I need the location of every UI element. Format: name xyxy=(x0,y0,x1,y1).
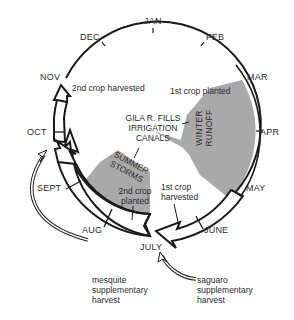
second-crop-harvested-label: 2nd crop harvested xyxy=(72,83,145,93)
saguaro-line-3: harvest xyxy=(197,295,253,305)
month-label-oct: OCT xyxy=(27,127,47,137)
first-harvested-line-2: harvested xyxy=(161,192,198,202)
center-label-line-1: GILA R. FILLS xyxy=(118,113,188,123)
mesquite-harvest-label: mesquite supplementary harvest xyxy=(92,275,148,305)
saguaro-harvest-label: saguaro supplementary harvest xyxy=(197,275,253,305)
mesquite-line-3: harvest xyxy=(92,295,148,305)
month-label-mar: MAR xyxy=(247,72,268,82)
month-label-july: JULY xyxy=(140,242,162,252)
month-label-june: JUNE xyxy=(204,225,228,235)
second-planted-line-1: 2nd crop xyxy=(114,186,156,196)
second-planted-line-2: planted xyxy=(114,196,156,206)
center-label-line-3: CANALS xyxy=(118,133,188,143)
saguaro-line-2: supplementary xyxy=(197,285,253,295)
month-label-nov: NOV xyxy=(40,72,60,82)
month-label-jan: JAN xyxy=(144,16,162,26)
month-label-dec: DEC xyxy=(80,32,100,42)
month-label-aug: AUG xyxy=(82,225,102,235)
month-label-apr: APR xyxy=(260,127,279,137)
saguaro-line-1: saguaro xyxy=(197,275,253,285)
seasonal-cycle-diagram xyxy=(0,0,294,320)
runoff-label: RUNOFF xyxy=(204,108,214,148)
center-label-line-2: IRRIGATION xyxy=(118,123,188,133)
center-label: GILA R. FILLS IRRIGATION CANALS xyxy=(118,113,188,143)
first-crop-harvested-label: 1st crop harvested xyxy=(161,182,198,202)
winter-label: WINTER xyxy=(194,108,204,148)
mesquite-line-1: mesquite xyxy=(92,275,148,285)
month-label-feb: FEB xyxy=(206,32,224,42)
first-harvested-line-1: 1st crop xyxy=(161,182,198,192)
first-crop-planted-label: 1st crop planted xyxy=(170,86,230,96)
winter-runoff-label: WINTER RUNOFF xyxy=(194,108,214,148)
mesquite-line-2: supplementary xyxy=(92,285,148,295)
month-label-may: MAY xyxy=(246,183,265,193)
month-label-sept: SEPT xyxy=(37,183,61,193)
second-crop-planted-label: 2nd crop planted xyxy=(114,186,156,206)
